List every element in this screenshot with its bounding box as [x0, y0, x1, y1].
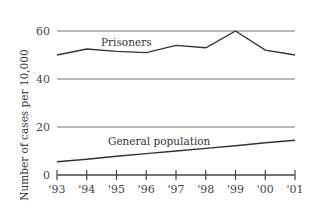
- x-axis-labels: '93'94'95'96'97'98'99'00'01: [48, 183, 303, 196]
- x-tick-label: '97: [167, 183, 184, 196]
- y-tick-0: 0: [43, 169, 50, 182]
- x-tick-label: '93: [48, 183, 65, 196]
- y-tick-20: 20: [36, 121, 50, 134]
- x-tick-label: '00: [257, 183, 274, 196]
- y-tick-60: 60: [36, 25, 50, 38]
- line-chart: 60 40 20 0 Number of cases per 10,000 Pr…: [0, 0, 318, 215]
- x-tick-label: '94: [78, 183, 95, 196]
- x-tick-label: '95: [108, 183, 125, 196]
- general-population-label: General population: [108, 135, 211, 147]
- y-tick-40: 40: [36, 73, 50, 86]
- prisoners-label: Prisoners: [101, 36, 152, 48]
- prisoners-line: [57, 31, 295, 55]
- x-tick-label: '98: [197, 183, 214, 196]
- x-tick-label: '99: [227, 183, 244, 196]
- x-tick-label: '01: [286, 183, 303, 196]
- y-axis-title: Number of cases per 10,000: [18, 49, 30, 200]
- x-tick-label: '96: [138, 183, 155, 196]
